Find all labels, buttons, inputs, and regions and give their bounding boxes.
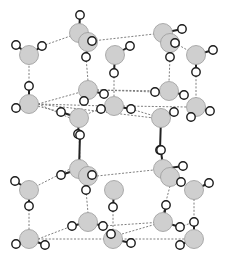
oxygen-atom (70, 109, 89, 128)
hydrogen-atom (127, 105, 135, 113)
hydrogen-atom (206, 107, 214, 115)
hydrogen-atom (25, 82, 33, 90)
hydrogen-atom (80, 97, 88, 105)
water-molecule-layer (11, 11, 217, 249)
hydrogen-atom (76, 11, 84, 19)
hydrogen-atom (171, 39, 179, 47)
water-molecule (154, 201, 185, 232)
hydrogen-atom (12, 104, 20, 112)
hydrogen-atom (110, 69, 118, 77)
hydrogen-atom (157, 146, 165, 154)
hydrogen-atom (176, 223, 184, 231)
water-molecule (104, 230, 136, 249)
water-molecule (12, 41, 46, 65)
water-molecule (79, 33, 98, 62)
oxygen-atom (160, 82, 179, 101)
hydrogen-atom (109, 203, 117, 211)
hydrogen-atom (57, 171, 65, 179)
oxygen-atom (185, 230, 204, 249)
hydrogen-atom (126, 42, 134, 50)
hydrogen-atom (166, 53, 174, 61)
oxygen-atom (105, 181, 124, 200)
hydrogen-atom (100, 90, 108, 98)
water-molecule (79, 167, 98, 195)
oxygen-atom (185, 181, 204, 200)
water-molecule (11, 177, 39, 210)
oxygen-atom (20, 230, 39, 249)
hydrogen-atom (99, 222, 107, 230)
hydrogen-atom (190, 218, 198, 226)
oxygen-atom (79, 213, 98, 232)
hydrogen-atom (57, 108, 65, 116)
oxygen-atom (106, 46, 125, 65)
hydrogen-atom (38, 42, 46, 50)
hydrogen-atom (177, 178, 185, 186)
hydrogen-atom (178, 25, 186, 33)
water-molecule (161, 34, 180, 62)
ice-lattice-diagram (0, 0, 226, 261)
hydrogen-atom (209, 46, 217, 54)
water-molecule (187, 98, 215, 122)
hydrogen-atom (82, 53, 90, 61)
water-molecule (151, 82, 188, 101)
hydrogen-atom (151, 88, 159, 96)
hydrogen-atom (170, 108, 178, 116)
hydrogen-bond (38, 226, 72, 239)
oxygen-atom (154, 213, 173, 232)
hydrogen-atom (41, 241, 49, 249)
hydrogen-atom (11, 177, 19, 185)
water-molecule (97, 97, 135, 116)
oxygen-atom (79, 81, 98, 100)
hydrogen-atom (180, 91, 188, 99)
hydrogen-atom (12, 41, 20, 49)
hydrogen-bond (92, 33, 163, 41)
hydrogen-atom (192, 68, 200, 76)
hydrogen-atom (187, 113, 195, 121)
water-molecule (79, 81, 109, 106)
oxygen-atom (105, 97, 124, 116)
water-molecule (68, 213, 107, 232)
oxygen-atom (20, 46, 39, 65)
water-molecule (12, 82, 39, 114)
hydrogen-atom (25, 202, 33, 210)
hydrogen-atom (127, 239, 135, 247)
hydrogen-atom (88, 37, 96, 45)
oxygen-atom (187, 46, 206, 65)
oxygen-atom (20, 181, 39, 200)
hydrogen-bond (38, 104, 105, 106)
hydrogen-atom (107, 230, 115, 238)
molecule-canvas (0, 0, 226, 261)
hydrogen-bond (97, 169, 163, 176)
water-molecule (185, 179, 214, 200)
water-molecule (105, 181, 124, 212)
oxygen-atom (152, 109, 171, 128)
hydrogen-atom (176, 241, 184, 249)
hydrogen-atom (97, 105, 105, 113)
hydrogen-atom (179, 162, 187, 170)
hydrogen-atom (88, 171, 96, 179)
water-molecule (187, 46, 218, 77)
hydrogen-atom (82, 186, 90, 194)
water-molecule (106, 42, 135, 77)
hydrogen-atom (12, 240, 20, 248)
hydrogen-atom (76, 131, 84, 139)
oxygen-atom (20, 95, 39, 114)
hydrogen-atom (162, 201, 170, 209)
hydrogen-atom (68, 222, 76, 230)
hydrogen-atom (205, 179, 213, 187)
